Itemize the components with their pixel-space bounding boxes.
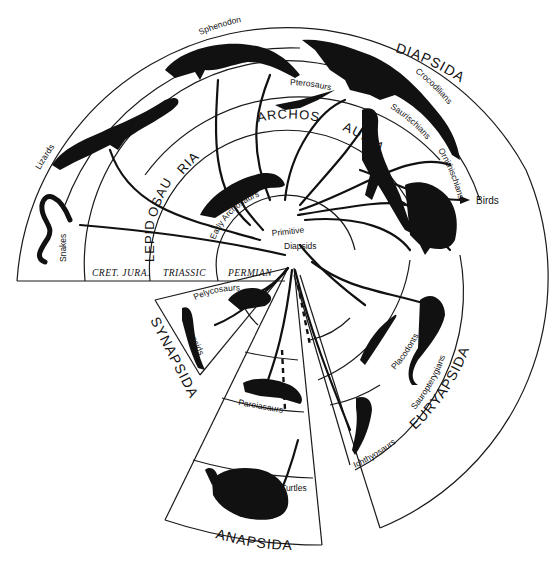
center-label-line2: Diapsids — [284, 241, 317, 251]
taxon-label-birds: Birds — [476, 195, 499, 206]
taxon-label-sphenodon: Sphenodon — [197, 14, 242, 37]
ichthyosaur-silhouette — [352, 397, 372, 455]
center-label-line1: Primitive — [271, 225, 305, 238]
group-label-anapsida: ANAPSIDA — [214, 526, 293, 554]
saurischian-silhouette — [362, 108, 415, 235]
taxon-label-placodonts: Placodonts — [389, 332, 420, 372]
subgroup-ria: RIA — [174, 148, 202, 177]
era-label-permian: PERMIAN — [227, 268, 272, 278]
sphenodon-silhouette — [165, 44, 300, 80]
euryapsida-mid-arc — [355, 255, 463, 470]
era-label-triassic: TRIASSIC — [163, 268, 206, 278]
subgroup-archos: ARCHOS — [256, 106, 322, 124]
taxon-label-snakes: Snakes — [58, 234, 68, 262]
era-label-cret-jura: CRET. JURA. — [92, 268, 150, 278]
phylogeny-diagram: DIAPSIDA SYNAPSIDA ANAPSIDA EURYAPSIDA L… — [0, 0, 558, 575]
lizard-silhouette — [52, 98, 178, 170]
taxon-label-pareiasaurs: Pareiasaurs — [238, 397, 284, 415]
placodont-silhouette — [360, 315, 396, 365]
taxon-label-lizards: Lizards — [33, 142, 56, 171]
ornithischian-silhouette — [405, 182, 457, 255]
subgroup-lepid: LEPID — [142, 219, 157, 262]
taxon-label-pterosaurs: Pterosaurs — [290, 77, 333, 93]
taxon-label-turtles: Turtles — [281, 483, 307, 493]
